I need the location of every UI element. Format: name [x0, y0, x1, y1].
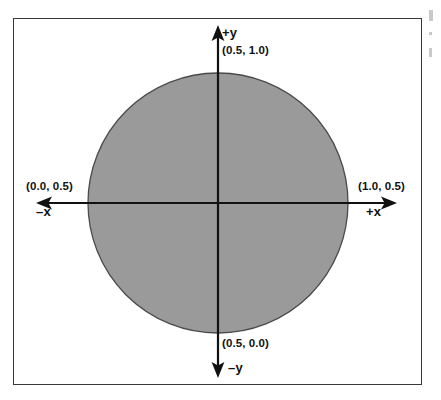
- margin-mark: [429, 32, 432, 35]
- axis-label-positive-y: +y: [222, 25, 237, 40]
- axis-label-negative-y: –y: [228, 360, 243, 375]
- coordinate-label-top: (0.5, 1.0): [222, 44, 269, 56]
- coordinate-label-left: (0.0, 0.5): [26, 180, 73, 192]
- margin-mark: [429, 48, 432, 57]
- figure-root: +y +x –x –y (0.5, 1.0) (1.0, 0.5) (0.0, …: [0, 0, 441, 400]
- axis-label-positive-x: +x: [366, 204, 381, 219]
- page-margin-artifacts: [429, 10, 441, 70]
- margin-mark: [429, 10, 433, 21]
- coordinate-diagram-svg: [0, 0, 441, 400]
- axis-label-negative-x: –x: [36, 204, 51, 219]
- coordinate-label-bottom: (0.5, 0.0): [222, 337, 269, 349]
- coordinate-label-right: (1.0, 0.5): [358, 180, 405, 192]
